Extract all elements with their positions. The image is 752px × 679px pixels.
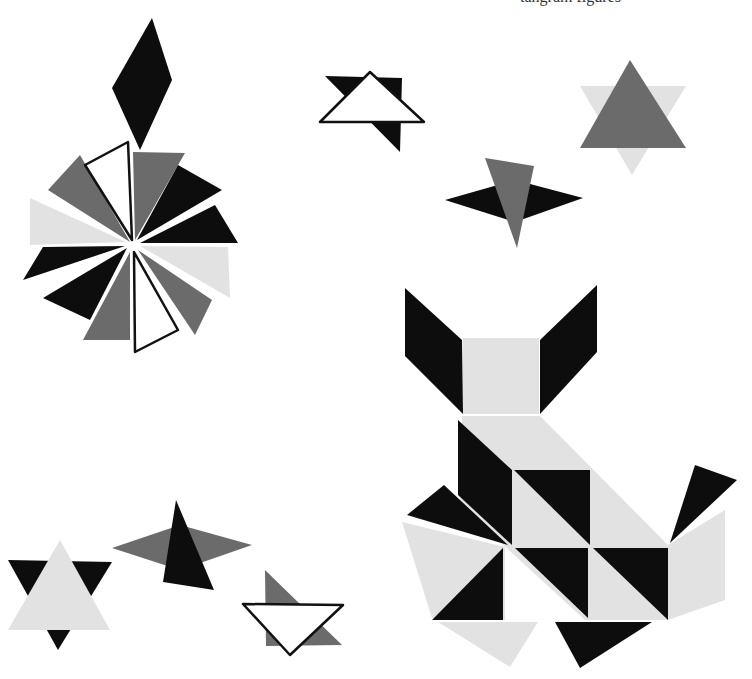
light-star-figure: [8, 540, 112, 650]
cat-dark-bottom: [555, 622, 652, 668]
tangram-illustration: [0, 0, 752, 679]
cat-head: [463, 338, 539, 414]
outlined-inverted-triangle: [243, 604, 343, 655]
outlined-inverted-figure: [243, 570, 343, 655]
outlined-triangle-star: [320, 72, 424, 152]
grey-six-point-star: [580, 60, 686, 175]
grey-diamond-figure: [112, 500, 252, 590]
cat-left-ear: [405, 288, 463, 414]
top-diamond-piece: [112, 18, 172, 150]
pinwheel-figure: [23, 18, 238, 352]
diamond-triangle-figure: [445, 158, 583, 248]
cat-right-ear: [540, 285, 597, 414]
cat-light-bottom: [438, 622, 538, 667]
cat-figure: [402, 285, 737, 668]
